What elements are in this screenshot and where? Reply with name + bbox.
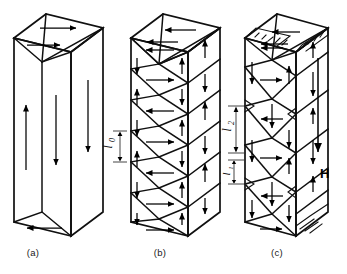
domain-structure-figure: (a): [0, 0, 347, 274]
figure-container: (a): [0, 0, 347, 274]
panel-c-l1-subscript: 1: [227, 166, 234, 169]
panel-b-period-subscript: 0: [108, 138, 117, 142]
panel-b-period-symbol: l: [100, 145, 115, 149]
panel-c-l2-subscript: 2: [227, 121, 236, 125]
field-label-H: H: [320, 166, 329, 181]
panel-c-l1-symbol: l: [220, 172, 232, 175]
panel-c-label: (c): [271, 247, 283, 258]
panel-b-label: (b): [154, 247, 167, 258]
panel-c-l2-symbol: l: [219, 128, 234, 132]
panel-a-label: (a): [27, 247, 40, 258]
